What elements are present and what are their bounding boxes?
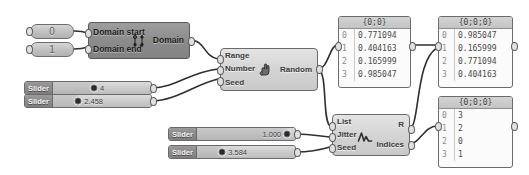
random-hand-icon (257, 62, 273, 78)
component-domain[interactable]: Domain start Domain end Domain (88, 22, 190, 59)
row-value: 0.404163 (354, 42, 410, 55)
slider-jitter-amount-label: Slider (169, 128, 197, 140)
table-row: 3 1 (439, 148, 512, 161)
panel-jitter-indices-header: {0;0;0} (439, 97, 512, 109)
jitter-inputs: List Jitter Seed (337, 115, 357, 155)
jitter-output-port-indices[interactable] (408, 141, 415, 150)
jitter-output-port-r[interactable] (408, 125, 415, 134)
row-value: 0.165999 (454, 42, 512, 55)
row-value: 0 (454, 135, 512, 148)
table-row: 0 3 (439, 109, 512, 122)
slider-seed-random-value: 2.458 (84, 97, 103, 106)
domain-outputs: Domain (153, 23, 184, 58)
row-value: 2 (454, 122, 512, 135)
row-index: 3 (439, 68, 454, 81)
slider-seed-random-label: Slider (25, 95, 53, 107)
panel-jitter-indices-output-port[interactable] (511, 122, 518, 131)
slider-seed-random-track[interactable]: 2.458 (53, 95, 151, 107)
random-input-port-range[interactable] (217, 55, 224, 64)
panel-jittered-values-output-port[interactable] (511, 42, 518, 51)
domain-output-port[interactable] (188, 37, 195, 46)
number-input-0[interactable]: 0 (30, 24, 74, 39)
slider-seed-jitter-output-port[interactable] (294, 148, 301, 157)
slider-seed-random[interactable]: Slider 2.458 (24, 94, 152, 108)
number-input-0-value: 0 (49, 26, 55, 37)
random-input-port-seed[interactable] (217, 77, 224, 86)
slider-number-track[interactable]: 4 (53, 82, 151, 94)
row-value: 0.771094 (354, 29, 410, 42)
jitter-input-jitter[interactable]: Jitter (337, 131, 357, 139)
slider-jitter-amount-output-port[interactable] (294, 130, 301, 139)
random-output-random[interactable]: Random (280, 66, 312, 74)
table-row: 2 0.165999 (339, 55, 410, 68)
jitter-output-indices[interactable]: Indices (376, 141, 404, 149)
row-index: 3 (439, 148, 454, 161)
slider-seed-jitter-knob[interactable] (219, 149, 226, 156)
row-index: 2 (439, 135, 454, 148)
table-row: 0 0.771094 (339, 29, 410, 42)
table-row: 1 2 (439, 122, 512, 135)
slider-seed-random-output-port[interactable] (150, 97, 157, 106)
table-row: 1 0.165999 (439, 42, 512, 55)
row-index: 0 (439, 29, 454, 42)
jitter-input-seed[interactable]: Seed (337, 144, 356, 152)
jitter-output-r[interactable]: R (398, 121, 404, 129)
random-output-port[interactable] (316, 65, 323, 74)
slider-number[interactable]: Slider 4 (24, 81, 152, 95)
component-jitter[interactable]: List Jitter Seed R Indices (332, 114, 410, 156)
slider-number-output-port[interactable] (150, 84, 157, 93)
slider-seed-jitter-track[interactable]: 3.584 (197, 146, 295, 158)
row-value: 3 (454, 109, 512, 122)
slider-jitter-amount[interactable]: Slider 1.000 (168, 127, 296, 141)
slider-number-knob[interactable] (91, 85, 98, 92)
random-input-range[interactable]: Range (225, 52, 249, 60)
row-value: 0.404163 (454, 68, 512, 81)
panel-random-values-header: {0;0} (339, 17, 410, 29)
panel-random-values[interactable]: {0;0} 0 0.771094 1 0.404163 2 0.165999 3… (338, 16, 411, 88)
domain-input-port-end[interactable] (85, 45, 92, 54)
node-graph-canvas[interactable]: 0 1 Domain start Domain end Domain Range… (0, 0, 529, 175)
panel-random-values-input-port[interactable] (335, 42, 342, 51)
slider-jitter-amount-value: 1.000 (262, 130, 281, 139)
row-value: 0.165999 (354, 55, 410, 68)
number-input-1[interactable]: 1 (30, 42, 74, 57)
jitter-input-list[interactable]: List (337, 118, 351, 126)
panel-jittered-values-header: {0;0;0} (439, 17, 512, 29)
domain-input-port-start[interactable] (85, 29, 92, 38)
component-random[interactable]: Range Number Seed Random (220, 48, 318, 91)
row-value: 0.985047 (354, 68, 410, 81)
table-row: 3 0.404163 (439, 68, 512, 81)
random-inputs: Range Number Seed (225, 49, 255, 90)
panel-random-values-output-port[interactable] (409, 42, 416, 51)
jitter-input-port-jitter[interactable] (329, 133, 336, 142)
number-input-1-port[interactable] (26, 45, 33, 54)
slider-seed-jitter-value: 3.584 (228, 148, 247, 157)
jitter-input-port-seed[interactable] (329, 144, 336, 153)
table-row: 3 0.985047 (339, 68, 410, 81)
slider-seed-jitter-label: Slider (169, 146, 197, 158)
random-input-port-number[interactable] (217, 66, 224, 75)
panel-jitter-indices[interactable]: {0;0;0} 0 3 1 2 2 0 3 1 (438, 96, 513, 168)
row-index: 0 (339, 29, 354, 42)
slider-number-value: 4 (100, 84, 104, 93)
table-row: 1 0.404163 (339, 42, 410, 55)
table-row: 2 0.771094 (439, 55, 512, 68)
number-input-0-port[interactable] (26, 27, 33, 36)
jitter-wave-icon (357, 129, 373, 145)
panel-jittered-values[interactable]: {0;0;0} 0 0.985047 1 0.165999 2 0.771094… (438, 16, 513, 88)
number-input-1-value: 1 (49, 44, 55, 55)
random-input-seed[interactable]: Seed (225, 79, 244, 87)
slider-seed-jitter[interactable]: Slider 3.584 (168, 145, 296, 159)
row-index: 2 (339, 55, 354, 68)
domain-output-domain[interactable]: Domain (153, 36, 184, 45)
slider-seed-random-knob[interactable] (75, 98, 82, 105)
panel-jittered-values-input-port[interactable] (435, 42, 442, 51)
random-input-number[interactable]: Number (225, 65, 255, 73)
panel-jitter-indices-input-port[interactable] (435, 122, 442, 131)
slider-jitter-amount-track[interactable]: 1.000 (197, 128, 295, 140)
slider-number-label: Slider (25, 82, 53, 94)
slider-number-fill (53, 82, 94, 94)
row-index: 2 (439, 55, 454, 68)
slider-jitter-amount-knob[interactable] (284, 131, 291, 138)
jitter-input-port-list[interactable] (329, 122, 336, 131)
